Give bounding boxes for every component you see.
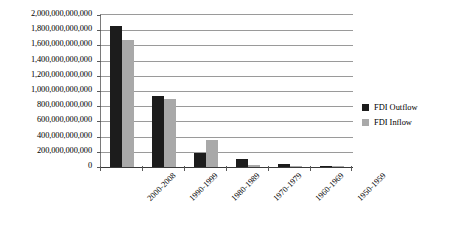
legend-swatch-icon [362,104,369,111]
y-tickmark [97,61,101,62]
x-tick-label: 2000-2008 [146,171,178,203]
legend-swatch-icon [362,119,369,126]
bar-group [311,15,353,167]
x-tick-label: 1970-1979 [272,171,304,203]
y-tickmark [97,15,101,16]
bars-layer [101,15,353,167]
y-tickmark [97,91,101,92]
y-tick-label: 200,000,000,000 [37,147,92,155]
y-tickmark [97,45,101,46]
bar-group [269,15,311,167]
plot-area [100,14,353,168]
bar-inflow [122,40,134,167]
x-tick-label: 1950-1959 [356,171,388,203]
y-tick-label: 600,000,000,000 [37,116,92,124]
legend-item: FDI Inflow [362,115,449,130]
y-tickmark [97,30,101,31]
y-tick-label: 1,000,000,000,000 [31,86,92,94]
y-tickmark [97,106,101,107]
legend-label: FDI Outflow [374,103,418,112]
y-tickmark [97,121,101,122]
y-tick-label: 1,600,000,000,000 [31,40,92,48]
y-tickmark [97,76,101,77]
y-tick-label: 1,400,000,000,000 [31,55,92,63]
bar-group [143,15,185,167]
bar-outflow [194,153,206,167]
y-tickmark [97,137,101,138]
y-tick-label: 800,000,000,000 [37,101,92,109]
chart-legend: FDI OutflowFDI Inflow [362,100,449,130]
legend-label: FDI Inflow [374,118,412,127]
bar-group [185,15,227,167]
y-tick-label: 1,200,000,000,000 [31,71,92,79]
y-axis: 0200,000,000,000400,000,000,000600,000,0… [0,14,96,166]
bar-inflow [206,140,218,167]
fdi-bar-chart: 0200,000,000,000400,000,000,000600,000,0… [0,0,449,227]
y-tick-label: 2,000,000,000,000 [31,10,92,18]
x-tick-label: 1980-1989 [230,171,262,203]
x-axis: 2000-20081990-19991980-19891970-19791960… [100,171,352,227]
x-tick-label: 1960-1969 [314,171,346,203]
legend-item: FDI Outflow [362,100,449,115]
bar-group [227,15,269,167]
x-tick-label: 1990-1999 [188,171,220,203]
y-tick-label: 400,000,000,000 [37,131,92,139]
bar-outflow [152,96,164,167]
y-tick-label: 0 [88,162,92,170]
bar-outflow [110,26,122,167]
y-tickmark [97,152,101,153]
bar-inflow [164,99,176,167]
y-tick-label: 1,800,000,000,000 [31,25,92,33]
bar-group [101,15,143,167]
